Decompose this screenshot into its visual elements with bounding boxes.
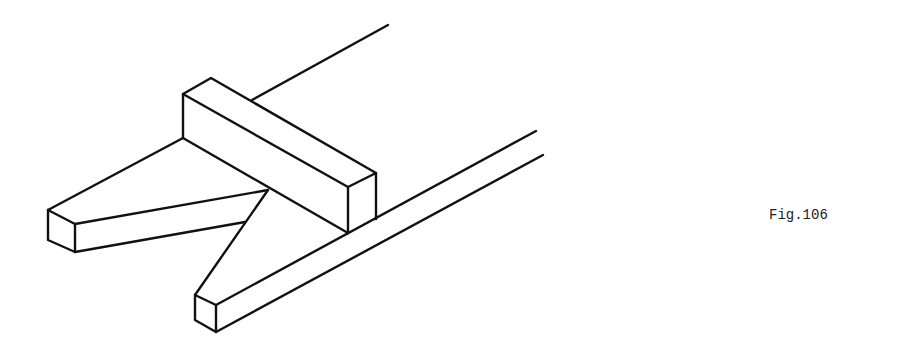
cross-block: [183, 78, 376, 233]
figure-caption: Fig.106: [769, 207, 828, 223]
left-arm: [48, 138, 268, 252]
right-arm: [195, 131, 543, 332]
back-rail-line: [252, 25, 388, 100]
isometric-drawing: [0, 0, 908, 353]
